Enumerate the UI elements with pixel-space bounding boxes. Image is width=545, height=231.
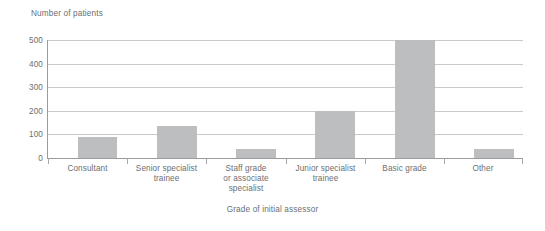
y-tick-label-0: 0 [3, 154, 43, 163]
x-tick-label-junior-line-0: Junior specialist [286, 164, 365, 174]
x-tick-label-senior-line-1: trainee [127, 174, 206, 184]
gridline-100 [48, 134, 523, 135]
x-tick-label-consultant: Consultant [48, 164, 127, 174]
x-tick-label-senior-line-0: Senior specialist [127, 164, 206, 174]
x-tick-label-staff-line-1: or associate [206, 174, 286, 184]
bar-staff-grade-or-associate [236, 149, 276, 158]
x-tick-label-staff-line-2: specialist [206, 184, 286, 194]
x-tick-label-junior-line-1: trainee [286, 174, 365, 184]
x-tick-label-other: Other [444, 164, 522, 174]
y-axis-tick-labels: 500 400 300 200 100 0 [0, 40, 43, 158]
gridline-400 [48, 64, 523, 65]
x-tick-label-staff-line-0: Staff grade [206, 164, 286, 174]
x-tick-label-basic-line-0: Basic grade [365, 164, 444, 174]
x-tick-label-other-line-0: Other [444, 164, 522, 174]
bar-consultant [78, 137, 117, 158]
y-tick-label-200: 200 [3, 106, 43, 115]
x-tick-label-junior-specialist-trainee: Junior specialist trainee [286, 164, 365, 184]
bar-chart-figure: Number of patients 500 400 300 200 100 0 [0, 0, 545, 231]
gridline-300 [48, 87, 523, 88]
y-tick-label-300: 300 [3, 83, 43, 92]
plot-area [48, 40, 523, 158]
y-tick-label-500: 500 [3, 36, 43, 45]
gridline-500 [48, 40, 523, 41]
gridline-200 [48, 111, 523, 112]
y-tick-label-100: 100 [3, 130, 43, 139]
x-tick-label-consultant-line-0: Consultant [48, 164, 127, 174]
bar-junior-specialist-trainee [315, 111, 355, 158]
x-tick-label-basic-grade: Basic grade [365, 164, 444, 174]
bar-basic-grade [395, 40, 435, 158]
bar-senior-specialist-trainee [157, 126, 197, 158]
bar-other [474, 149, 514, 158]
x-tick-label-staff-grade-or-associate: Staff grade or associate specialist [206, 164, 286, 195]
x-axis-title: Grade of initial assessor [0, 205, 545, 214]
x-axis-tick-labels: Consultant Senior specialist trainee Sta… [48, 164, 523, 200]
y-axis-title: Number of patients [31, 9, 103, 18]
x-tick-label-senior-specialist-trainee: Senior specialist trainee [127, 164, 206, 184]
y-tick-label-400: 400 [3, 59, 43, 68]
